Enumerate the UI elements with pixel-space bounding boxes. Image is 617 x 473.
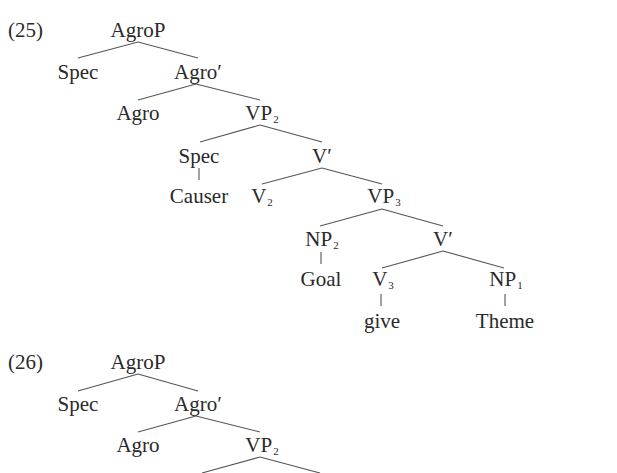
node-v-bar: V′ bbox=[312, 144, 332, 168]
example-number: (25) bbox=[8, 18, 43, 42]
node-causer: Causer bbox=[170, 184, 228, 208]
example-number: (26) bbox=[8, 350, 43, 374]
node-spec: Spec bbox=[58, 60, 99, 84]
node-agrop: AgroP bbox=[111, 350, 166, 374]
node-agro-bar: Agro′ bbox=[174, 392, 222, 416]
node-agro-bar: Agro′ bbox=[174, 60, 222, 84]
node-theme: Theme bbox=[476, 309, 534, 333]
node-vp2: VP2 bbox=[245, 433, 278, 463]
node-spec: Spec bbox=[58, 392, 99, 416]
node-vp3: VP3 bbox=[367, 184, 400, 214]
node-np1: NP1 bbox=[489, 267, 522, 297]
node-agrop: AgroP bbox=[111, 18, 166, 42]
node-vp2: VP2 bbox=[245, 101, 278, 131]
node-agro: Agro bbox=[116, 101, 159, 125]
node-spec-vp2: Spec bbox=[179, 144, 220, 168]
node-agro: Agro bbox=[116, 433, 159, 457]
node-goal: Goal bbox=[301, 267, 342, 291]
node-v3: V3 bbox=[372, 267, 394, 297]
node-v2: V2 bbox=[251, 184, 273, 214]
node-give: give bbox=[364, 309, 400, 333]
node-v-bar-2: V′ bbox=[433, 227, 453, 251]
node-np2: NP2 bbox=[305, 227, 338, 257]
